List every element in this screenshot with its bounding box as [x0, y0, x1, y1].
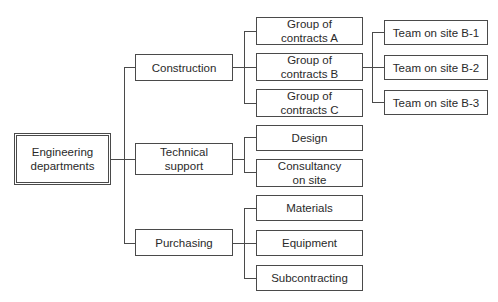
node-label: contracts A [281, 32, 338, 44]
connector [244, 137, 256, 138]
node-engineering-departments: Engineeringdepartments [14, 133, 111, 185]
node-group-of-contracts-a: Group ofcontracts A [256, 17, 363, 45]
node-label: contracts C [280, 104, 338, 116]
node-construction: Construction [135, 54, 233, 81]
connector [244, 243, 256, 244]
node-consultancy-on-site: Consultancyon site [256, 159, 363, 187]
node-label: departments [31, 160, 95, 172]
node-equipment: Equipment [256, 230, 363, 256]
node-label: support [165, 160, 203, 172]
node-label: Materials [286, 201, 333, 215]
connector [372, 102, 384, 103]
node-team-on-site-b-2: Team on site B-2 [384, 55, 488, 80]
node-label: contracts B [281, 68, 339, 80]
connector [124, 67, 125, 243]
connector [244, 31, 256, 32]
node-materials: Materials [256, 195, 363, 221]
connector [372, 67, 384, 68]
node-label: Team on site B-1 [393, 26, 479, 40]
connector [244, 67, 256, 68]
node-label: Group of [287, 54, 332, 66]
node-label: Engineering [32, 146, 93, 158]
node-label: Group of [287, 90, 332, 102]
connector [124, 159, 135, 160]
node-label: Construction [152, 61, 217, 75]
connector [244, 208, 256, 209]
node-subcontracting: Subcontracting [256, 265, 363, 291]
connector [124, 67, 135, 68]
connector [244, 172, 256, 173]
connector [111, 159, 125, 160]
connector [124, 243, 135, 244]
node-team-on-site-b-1: Team on site B-1 [384, 20, 488, 45]
node-label: Purchasing [155, 236, 213, 250]
node-label: Team on site B-3 [393, 96, 479, 110]
node-group-of-contracts-c: Group ofcontracts C [256, 89, 363, 117]
node-label: Design [292, 131, 328, 145]
connector [244, 137, 245, 172]
node-label: Technical [160, 146, 208, 158]
node-technical-support: Technicalsupport [135, 143, 233, 175]
node-team-on-site-b-3: Team on site B-3 [384, 90, 488, 115]
node-purchasing: Purchasing [135, 229, 233, 256]
node-label: Team on site B-2 [393, 61, 479, 75]
connector [244, 103, 256, 104]
connector [244, 278, 256, 279]
node-label: Consultancy [278, 160, 341, 172]
node-design: Design [256, 125, 363, 151]
node-label: Group of [287, 18, 332, 30]
node-label: Equipment [282, 236, 337, 250]
node-label: on site [293, 174, 327, 186]
node-group-of-contracts-b: Group ofcontracts B [256, 53, 363, 81]
connector [372, 32, 384, 33]
node-label: Subcontracting [271, 271, 348, 285]
